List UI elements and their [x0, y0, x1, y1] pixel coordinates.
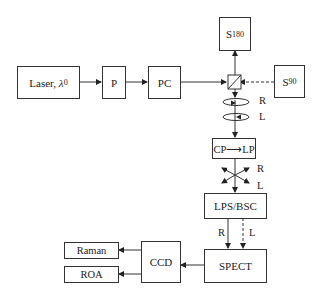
circular-l-label: L — [259, 111, 265, 122]
pc-box: PC — [148, 66, 181, 99]
cp-lp-label: CP⟶LP — [213, 143, 254, 155]
s180-box: S180 — [219, 17, 251, 51]
raman-box: Raman — [64, 242, 119, 259]
linear-polarization-cross-icon — [222, 168, 235, 175]
linear-l-label: L — [257, 180, 263, 191]
polarizer-label: P — [111, 77, 117, 89]
spect-label: SPECT — [219, 260, 252, 272]
lps-bsc-label: LPS/BSC — [214, 200, 257, 212]
ccd-label: CCD — [150, 256, 173, 268]
prism-beamsplitter-icon — [228, 75, 241, 89]
raman-label: Raman — [77, 245, 107, 256]
s90-box: S90 — [274, 65, 305, 98]
s180-subscript: 180 — [232, 30, 244, 39]
beam-l-label: L — [249, 227, 255, 238]
ccd-box: CCD — [141, 241, 181, 283]
spect-box: SPECT — [204, 249, 267, 283]
s90-subscript: 90 — [289, 77, 297, 86]
beam-r-label: R — [218, 227, 225, 238]
laser-box: Laser, λ0 — [17, 66, 80, 99]
cp-lp-box: CP⟶LP — [212, 138, 256, 159]
roa-label: ROA — [80, 269, 102, 280]
lambda-subscript: 0 — [64, 78, 68, 87]
linear-r-label: R — [257, 163, 264, 174]
pc-label: PC — [158, 77, 171, 89]
circular-polarization-r-icon — [223, 99, 249, 106]
polarizer-box: P — [102, 66, 126, 99]
circular-r-label: R — [259, 95, 266, 106]
roa-box: ROA — [64, 266, 119, 283]
lps-bsc-box: LPS/BSC — [204, 193, 267, 219]
laser-label: Laser, — [29, 77, 59, 89]
